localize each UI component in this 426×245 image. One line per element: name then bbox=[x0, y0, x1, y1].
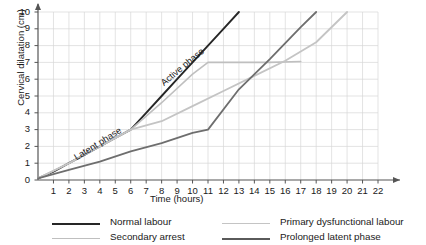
x-tick-label: 12 bbox=[215, 185, 231, 196]
x-tick-label: 2 bbox=[61, 185, 77, 196]
x-tick-label: 21 bbox=[355, 185, 371, 196]
x-tick-label: 16 bbox=[277, 185, 293, 196]
x-tick-label: 6 bbox=[123, 185, 139, 196]
y-tick-label: 8 bbox=[12, 39, 30, 50]
y-tick-label: 0 bbox=[12, 174, 30, 185]
y-tick-label: 2 bbox=[12, 140, 30, 151]
x-tick-label: 5 bbox=[107, 185, 123, 196]
y-tick-label: 3 bbox=[12, 123, 30, 134]
legend-swatch bbox=[52, 223, 100, 225]
legend-label: Normal labour bbox=[110, 216, 172, 227]
y-tick-label: 1 bbox=[12, 157, 30, 168]
series-line-normal-labour bbox=[38, 12, 239, 178]
x-tick-label: 9 bbox=[169, 185, 185, 196]
arrow-right-icon bbox=[393, 177, 400, 183]
legend-label: Primary dysfunctional labour bbox=[280, 216, 404, 227]
x-tick-label: 19 bbox=[324, 185, 340, 196]
arrow-up-icon bbox=[35, 3, 41, 10]
x-tick-label: 4 bbox=[92, 185, 108, 196]
x-tick-label: 10 bbox=[185, 185, 201, 196]
chart-container: Cervical dilatation (cm) Time (hours) 01… bbox=[0, 0, 426, 245]
chart-legend: Normal labourSecondary arrestPrimary dys… bbox=[0, 212, 426, 245]
y-tick-label: 4 bbox=[12, 106, 30, 117]
plot-area bbox=[0, 0, 426, 210]
x-tick-label: 1 bbox=[45, 185, 61, 196]
x-tick-label: 15 bbox=[262, 185, 278, 196]
legend-label: Prolonged latent phase bbox=[280, 231, 381, 242]
y-tick-label: 10 bbox=[12, 6, 30, 17]
legend-swatch bbox=[52, 238, 100, 239]
tick-marks bbox=[35, 12, 379, 184]
x-tick-label: 11 bbox=[200, 185, 216, 196]
x-tick-label: 22 bbox=[370, 185, 386, 196]
x-tick-label: 13 bbox=[231, 185, 247, 196]
y-tick-label: 6 bbox=[12, 73, 30, 84]
y-tick-label: 9 bbox=[12, 22, 30, 33]
y-tick-label: 7 bbox=[12, 56, 30, 67]
x-tick-label: 17 bbox=[293, 185, 309, 196]
legend-swatch bbox=[222, 223, 270, 224]
x-tick-label: 20 bbox=[339, 185, 355, 196]
x-tick-label: 3 bbox=[76, 185, 92, 196]
x-tick-label: 7 bbox=[138, 185, 154, 196]
y-tick-label: 5 bbox=[12, 90, 30, 101]
legend-swatch bbox=[222, 238, 270, 240]
x-tick-label: 8 bbox=[154, 185, 170, 196]
legend-label: Secondary arrest bbox=[110, 231, 185, 242]
x-tick-label: 18 bbox=[308, 185, 324, 196]
x-tick-label: 14 bbox=[246, 185, 262, 196]
